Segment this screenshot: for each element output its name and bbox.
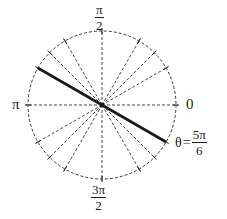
tick-mark xyxy=(152,51,156,55)
theta-fraction: 5π 6 xyxy=(192,128,207,157)
equals-sign: = xyxy=(183,135,191,151)
label-pi: π xyxy=(12,97,20,112)
tick-mark xyxy=(35,141,40,144)
label-3pi-over-2: 3π 2 xyxy=(91,183,106,212)
tick-mark xyxy=(64,38,67,43)
theta-symbol: θ xyxy=(175,135,182,151)
label-pi-over-2: π 2 xyxy=(95,3,104,32)
tick-mark xyxy=(64,166,67,171)
theta-numerator: 5π xyxy=(192,128,207,143)
tick-mark xyxy=(163,67,168,70)
label-top-denominator: 2 xyxy=(96,18,103,32)
label-top-numerator: π xyxy=(95,3,104,18)
origin-point xyxy=(100,103,104,107)
label-bottom-numerator: 3π xyxy=(91,183,106,198)
theta-denominator: 6 xyxy=(196,143,203,157)
tick-mark xyxy=(138,38,141,43)
label-zero: 0 xyxy=(186,97,194,112)
label-bottom-denominator: 2 xyxy=(95,198,102,212)
tick-mark xyxy=(138,166,141,171)
label-theta: θ = 5π 6 xyxy=(175,128,207,157)
